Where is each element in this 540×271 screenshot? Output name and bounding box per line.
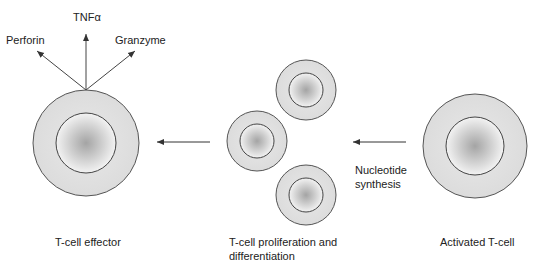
granzyme-arrow: [86, 51, 135, 90]
proliferation-label-line2: differentiation: [229, 250, 295, 263]
perforin-label: Perforin: [6, 34, 45, 47]
effector-label: T-cell effector: [55, 236, 121, 249]
proliferating-cell-bottom: [276, 165, 336, 225]
activated-label: Activated T-cell: [440, 236, 514, 249]
proliferation-label-line1: T-cell proliferation and: [229, 236, 337, 249]
tnf-alpha-label: TNFα: [73, 11, 101, 24]
nucleotide-synthesis-label-line1: Nucleotide: [355, 164, 407, 177]
proliferating-cell-left: [227, 111, 287, 171]
activated-t-cell: [423, 94, 527, 198]
proliferating-cell-top: [276, 60, 336, 120]
perforin-arrow: [37, 51, 86, 90]
diagram-canvas: [0, 0, 540, 271]
effector-t-cell: [33, 90, 139, 196]
granzyme-label: Granzyme: [115, 34, 166, 47]
nucleotide-synthesis-label-line2: synthesis: [355, 178, 401, 191]
